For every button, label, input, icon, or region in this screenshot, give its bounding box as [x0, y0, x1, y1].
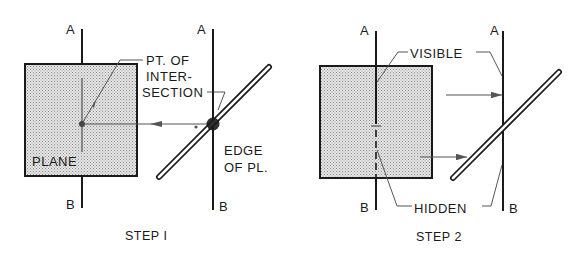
- step1-caption: STEP I: [125, 229, 167, 243]
- step2-edge-label-b: B: [509, 201, 518, 216]
- plane-line-intersection-diagram: A B PLANE PT. OF INTER- SECTION A B EDGE…: [0, 0, 585, 258]
- step-2-group: A B VISIBLE HIDDEN A B STEP 2: [320, 23, 559, 244]
- step2-caption: STEP 2: [416, 230, 462, 244]
- step1-small-dot: [194, 125, 197, 128]
- step2-front-label-a: A: [360, 23, 369, 38]
- step1-edge-label-line1: EDGE: [224, 143, 263, 158]
- step-1-group: A B PLANE PT. OF INTER- SECTION A B EDGE…: [25, 22, 269, 243]
- step1-callout-line1: PT. OF: [146, 53, 189, 68]
- step2-front-label-b: B: [360, 200, 369, 215]
- step1-plane-label: PLANE: [32, 154, 77, 169]
- step2-visible-label: VISIBLE: [410, 46, 463, 61]
- step1-edge-label-line2: OF PL.: [224, 160, 268, 175]
- step1-edge-label-a: A: [197, 22, 206, 37]
- step1-callout-leader-2: [207, 92, 225, 110]
- step2-edge-of-plane-rod: [453, 72, 559, 178]
- step1-edge-label-b: B: [219, 199, 228, 214]
- step1-front-label-b: B: [66, 197, 75, 212]
- step2-hidden-label: HIDDEN: [414, 201, 467, 216]
- step2-hidden-leader-right: [482, 165, 502, 206]
- step1-callout-line2: INTER-: [146, 69, 192, 84]
- step1-projection-arrowhead: [150, 121, 162, 127]
- step2-edge-label-a: A: [490, 23, 499, 38]
- step1-front-label-a: A: [66, 22, 75, 37]
- step1-callout-line3: SECTION: [142, 85, 203, 100]
- step1-intersection-blob: [207, 118, 220, 131]
- step2-visible-leader-right: [476, 52, 502, 76]
